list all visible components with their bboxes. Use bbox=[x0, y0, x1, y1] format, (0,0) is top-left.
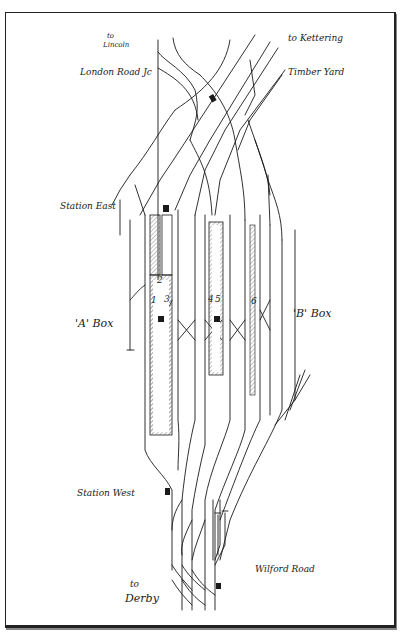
label-timber-yard: Timber Yard bbox=[288, 68, 344, 77]
platform-number-6: 6 bbox=[251, 297, 257, 306]
label-station-west: Station West bbox=[77, 489, 135, 498]
label-wilford-road: Wilford Road bbox=[255, 565, 315, 574]
platform-number-5: 5 bbox=[215, 295, 221, 304]
label-london-road-jc: London Road Jc bbox=[80, 68, 152, 77]
label-b-box: 'B' Box bbox=[293, 308, 332, 319]
label-to-derby-1: to bbox=[130, 580, 139, 589]
platforms bbox=[150, 215, 255, 435]
kettering-line-1 bbox=[140, 35, 255, 215]
label-to-kettering: to Kettering bbox=[288, 34, 343, 43]
platform-number-2: 2 bbox=[157, 276, 163, 285]
platform-number-1: 1 bbox=[151, 296, 157, 305]
label-to-lincoln-1: to bbox=[107, 33, 114, 40]
track-diagram bbox=[0, 0, 403, 634]
label-to-derby-2: Derby bbox=[125, 593, 159, 604]
platform-number-4: 4 bbox=[208, 295, 214, 304]
label-station-east: Station East bbox=[60, 202, 116, 211]
platform-number-3: 3 bbox=[164, 295, 170, 304]
label-a-box: 'A' Box bbox=[75, 318, 113, 329]
label-to-lincoln-2: Lincoln bbox=[103, 42, 129, 49]
